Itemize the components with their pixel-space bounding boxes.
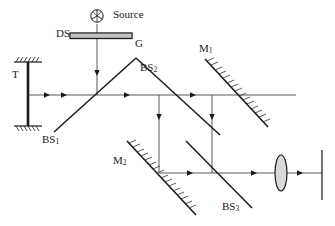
g-label: G — [135, 38, 143, 49]
beam-direction-arrow-icon — [44, 92, 50, 97]
bs1-label-sub: 1 — [55, 137, 59, 146]
bs3-label: BS3 — [222, 201, 239, 213]
beam-direction-arrow-icon — [297, 170, 303, 175]
beam-direction-arrow-icon — [124, 92, 130, 97]
bs1-label: BS1 — [42, 134, 59, 146]
optical-diagram-figure: Source DS G T BS1 BS2 BS3 M1 M2 — [0, 0, 335, 226]
beam-direction-arrow-icon — [209, 114, 214, 120]
bs3-label-prefix: BS — [222, 200, 235, 212]
beam-direction-arrow-icon — [94, 70, 99, 76]
t-label: T — [12, 69, 19, 80]
convex-lens-icon — [275, 155, 287, 191]
bs1-label-prefix: BS — [42, 133, 55, 145]
beam-splitter-bs3-icon — [186, 141, 252, 208]
mirror-m1-icon — [205, 58, 270, 127]
beam-direction-arrow-icon — [190, 92, 196, 97]
diffraction-grating-icon — [70, 33, 132, 39]
m1-label-prefix: M — [199, 42, 209, 54]
m2-label-prefix: M — [113, 154, 123, 166]
beam-path-group — [28, 24, 322, 173]
bs2-label-sub: 2 — [153, 65, 157, 74]
diagram-canvas — [0, 0, 335, 226]
m1-label-sub: 1 — [209, 46, 213, 55]
m2-label-sub: 2 — [123, 158, 127, 167]
beam-direction-arrow-icon — [61, 92, 67, 97]
beam-direction-arrow-icon — [156, 114, 161, 120]
ds-label: DS — [56, 28, 70, 39]
source-label: Source — [113, 9, 144, 20]
m2-label: M2 — [113, 155, 127, 167]
bs3-label-sub: 3 — [235, 204, 239, 213]
beam-direction-arrow-icon — [251, 170, 257, 175]
bs2-label-prefix: BS — [140, 61, 153, 73]
mirror-m2-icon — [127, 140, 196, 215]
m1-label: M1 — [199, 43, 213, 55]
bs2-label: BS2 — [140, 62, 157, 74]
light-source-icon — [91, 10, 103, 22]
beam-direction-arrow-icon — [187, 170, 193, 175]
